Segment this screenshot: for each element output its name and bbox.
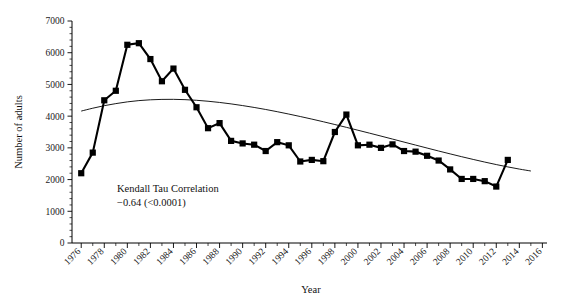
data-point-marker [401, 148, 407, 154]
data-point-marker [309, 157, 315, 163]
x-tick-label: 1982 [131, 246, 152, 267]
annotation-line-1: Kendall Tau Correlation [117, 183, 219, 194]
data-point-marker [193, 104, 199, 110]
data-point-marker [240, 140, 246, 146]
x-tick-label: 2002 [362, 246, 383, 267]
data-point-marker [343, 111, 349, 117]
x-tick-label: 1996 [293, 246, 314, 267]
y-tick-label: 3000 [46, 143, 65, 153]
y-axis-ticks [68, 21, 73, 243]
x-tick-label: 2000 [339, 246, 360, 267]
annotation-line-2: −0.64 (<0.0001) [117, 197, 186, 209]
data-point-marker [378, 145, 384, 151]
data-point-marker [332, 129, 338, 135]
chart-figure: 01000200030004000500060007000 1976197819… [0, 0, 577, 304]
data-point-marker [493, 183, 499, 189]
y-tick-label: 0 [60, 238, 65, 248]
number-of-adults-line-chart: 01000200030004000500060007000 1976197819… [0, 0, 577, 304]
x-tick-label: 1992 [247, 246, 268, 267]
data-point-marker [482, 178, 488, 184]
data-point-marker [113, 88, 119, 94]
data-point-marker [90, 150, 96, 156]
x-tick-label: 2016 [523, 246, 544, 267]
x-tick-label: 1984 [154, 246, 175, 267]
data-point-marker [205, 125, 211, 131]
data-point-marker [389, 141, 395, 147]
x-tick-label: 1990 [224, 246, 245, 267]
x-axis-tick-labels: 1976197819801982198419861988199019921994… [62, 246, 544, 267]
data-point-marker [228, 138, 234, 144]
y-tick-label: 7000 [46, 16, 65, 26]
data-point-marker [286, 142, 292, 148]
y-tick-label: 6000 [46, 48, 65, 58]
data-point-marker [216, 120, 222, 126]
data-point-marker [436, 157, 442, 163]
y-tick-label: 2000 [46, 175, 65, 185]
data-point-marker [263, 148, 269, 154]
x-tick-label: 2012 [477, 246, 498, 267]
data-point-marker [274, 139, 280, 145]
data-point-marker [470, 176, 476, 182]
x-axis-ticks [81, 243, 542, 248]
x-tick-label: 2006 [408, 246, 429, 267]
data-point-marker [459, 176, 465, 182]
x-tick-label: 1998 [316, 246, 337, 267]
x-axis-title: Year [301, 284, 321, 295]
x-tick-label: 2010 [454, 246, 475, 267]
data-point-marker [355, 142, 361, 148]
data-point-marker [159, 78, 165, 84]
x-tick-label: 1980 [108, 246, 129, 267]
data-point-marker [251, 142, 257, 148]
data-point-marker [297, 158, 303, 164]
data-point-marker [447, 166, 453, 172]
data-point-marker [182, 87, 188, 93]
data-point-marker [366, 142, 372, 148]
data-point-marker [320, 158, 326, 164]
y-axis-title: Number of adults [13, 95, 24, 169]
axis-spines [72, 21, 547, 243]
data-point-marker [136, 40, 142, 46]
x-tick-label: 2004 [385, 246, 406, 267]
data-point-marker [424, 153, 430, 159]
x-tick-label: 1988 [200, 246, 221, 267]
x-tick-label: 1976 [62, 246, 83, 267]
data-point-marker [101, 97, 107, 103]
x-tick-label: 1986 [177, 246, 198, 267]
data-point-marker [124, 42, 130, 48]
y-tick-label: 4000 [46, 112, 65, 122]
data-point-marker [147, 56, 153, 62]
x-tick-label: 1978 [85, 246, 106, 267]
data-point-marker [78, 170, 84, 176]
y-axis-tick-labels: 01000200030004000500060007000 [46, 16, 65, 248]
x-tick-label: 2014 [500, 246, 521, 267]
y-tick-label: 1000 [46, 207, 65, 217]
data-point-marker [170, 65, 176, 71]
data-point-marker [412, 149, 418, 155]
x-tick-label: 1994 [270, 246, 291, 267]
x-tick-label: 2008 [431, 246, 452, 267]
y-tick-label: 5000 [46, 80, 65, 90]
data-point-marker [505, 157, 511, 163]
